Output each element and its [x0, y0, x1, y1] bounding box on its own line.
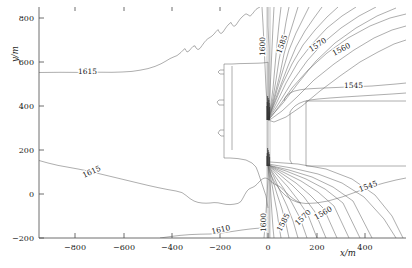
block-left-outline: [224, 62, 268, 208]
ytick-label-800: 800: [19, 14, 34, 23]
ytick-label-0: 0: [29, 190, 34, 199]
xtick-label--600: −600: [113, 243, 135, 252]
contour-label-1610: 1610: [211, 223, 232, 236]
xtick-label--200: −200: [209, 243, 231, 252]
ytick-label-200: 200: [19, 146, 34, 155]
contour-label-1615-lower: 1615: [81, 163, 102, 179]
contour-l15: [270, 162, 403, 238]
contour-u12: [268, 8, 396, 120]
convergence-node-lower: [267, 148, 270, 166]
contour-1615-upper: [39, 7, 260, 73]
contour-plot-canvas: −200 0 200 400 600 800 −800 −600 −400 −2…: [0, 0, 412, 268]
x-axis-label: x/m: [340, 248, 356, 258]
contour-plot-figure: −200 0 200 400 600 800 −800 −600 −400 −2…: [0, 0, 412, 268]
contour-u11: [268, 7, 376, 120]
ytick-label--200: −200: [12, 234, 34, 243]
block-right-inner: [290, 112, 292, 164]
contour-label-1560-upper: 1560: [331, 41, 352, 58]
contour-u14: [268, 26, 406, 120]
contour-label-1600-lower: 1600: [259, 213, 268, 232]
xtick-label--400: −400: [161, 243, 183, 252]
contour-label-1585-upper: 1585: [274, 33, 289, 54]
ytick-label-400: 400: [19, 102, 34, 111]
contour-label-1615-upper: 1615: [78, 67, 97, 76]
contour-label-1600-upper: 1600: [258, 37, 267, 56]
ytick-label-600: 600: [19, 58, 34, 67]
contour-1545b-upper: [290, 93, 406, 112]
block-right-outline: [306, 101, 406, 166]
xtick-label--800: −800: [64, 243, 86, 252]
contour-l7: [268, 165, 307, 238]
contour-label-1545-lower: 1545: [358, 179, 379, 194]
y-axis-label: y/m: [10, 46, 20, 62]
xtick-label-400: 400: [357, 243, 372, 252]
contour-lines-group: [39, 7, 406, 238]
axis-frame: [39, 7, 406, 238]
contour-label-1570-upper: 1570: [307, 36, 328, 54]
block-left-rough: [217, 70, 224, 136]
contour-label-1560-lower: 1560: [313, 204, 334, 221]
xtick-label-0: 0: [265, 243, 270, 252]
xtick-label-200: 200: [309, 243, 324, 252]
contour-u13: [268, 14, 406, 120]
contour-label-1545-upper: 1545: [344, 81, 363, 90]
